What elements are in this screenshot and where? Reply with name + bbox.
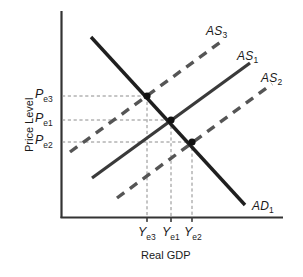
equilibrium-point-e3 [143,92,150,99]
price-label-pe2: Pe2 [35,134,53,149]
curve-label-as2: AS2 [261,72,282,87]
output-label-ye3: Ye3 [138,226,156,241]
curve-label-as3: AS3 [206,25,227,40]
equilibrium-point-e2 [188,138,195,145]
curve-label-as1: AS1 [237,50,258,65]
price-label-pe1: Pe1 [35,112,53,127]
ad-as-diagram: AS3 AS1 AS2 AD1 Pe3 Pe1 Pe2 Ye3 Ye1 Ye2 … [0,0,303,277]
y-axis-title: Price Level [24,98,35,152]
output-label-ye1: Ye1 [162,226,180,241]
price-label-pe3: Pe3 [35,88,53,103]
output-label-ye2: Ye2 [184,226,202,241]
equilibrium-point-e1 [167,116,174,123]
x-axis-title: Real GDP [141,250,191,261]
curve-label-ad1: AD1 [252,200,274,215]
